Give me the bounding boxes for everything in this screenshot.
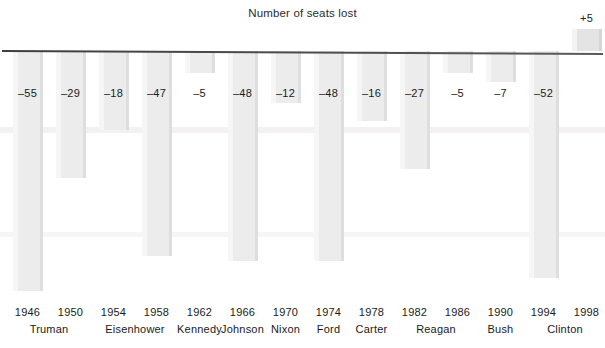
year-label-1950: 1950 [48,306,94,318]
bar-1998 [572,29,602,51]
year-label-1986: 1986 [435,306,481,318]
plot-area: –55–29–18–47–5–48–12–48–16–27–5–7–52+5 [0,0,605,300]
bar-value-1958: –47 [135,87,179,99]
bar-1958 [142,51,172,256]
bar-value-1962: –5 [178,87,222,99]
x-axis-labels: 1946195019541958196219661970197419781982… [0,300,605,348]
year-label-1978: 1978 [349,306,395,318]
scan-artifact-band [0,127,605,133]
bar-value-1970: –12 [264,87,308,99]
year-label-1954: 1954 [91,306,137,318]
bar-1966 [228,51,258,261]
bar-1994 [529,51,559,278]
year-label-1994: 1994 [521,306,567,318]
bar-1990 [486,51,516,82]
year-label-1982: 1982 [392,306,438,318]
scan-artifact-band-lower [0,232,605,237]
bar-value-1954: –18 [92,87,136,99]
bar-1950 [56,51,86,178]
year-label-1966: 1966 [220,306,266,318]
year-label-1990: 1990 [478,306,524,318]
year-label-1970: 1970 [263,306,309,318]
bar-1982 [400,51,430,169]
bar-value-1982: –27 [393,87,437,99]
year-label-1962: 1962 [177,306,223,318]
bar-value-1946: –55 [6,87,50,99]
president-label-truman: Truman [9,323,89,335]
bar-value-1998: +5 [565,12,605,24]
year-label-1958: 1958 [134,306,180,318]
bar-value-1966: –48 [221,87,265,99]
bar-value-1986: –5 [436,87,480,99]
year-label-1974: 1974 [306,306,352,318]
bar-1978 [357,51,387,121]
bar-1962 [185,51,215,73]
president-label-clinton: Clinton [525,323,605,335]
bar-value-1994: –52 [522,87,566,99]
bar-1974 [314,51,344,261]
bar-value-1974: –48 [307,87,351,99]
chart-root: Number of seats lost –55–29–18–47–5–48–1… [0,0,605,348]
year-label-1998: 1998 [564,306,605,318]
bar-value-1950: –29 [49,87,93,99]
bar-value-1990: –7 [479,87,523,99]
bar-value-1978: –16 [350,87,394,99]
year-label-1946: 1946 [5,306,51,318]
